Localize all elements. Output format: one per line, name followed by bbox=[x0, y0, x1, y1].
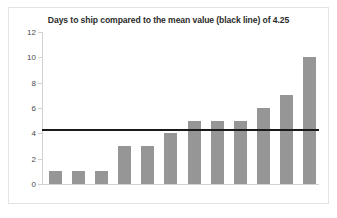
bar bbox=[280, 95, 293, 184]
bar bbox=[95, 171, 108, 184]
bar bbox=[303, 57, 316, 184]
bar bbox=[257, 108, 270, 184]
y-tick-label-10: 10 bbox=[27, 53, 36, 62]
mean-line bbox=[42, 129, 319, 131]
y-tick-label-4: 4 bbox=[32, 129, 36, 138]
bar bbox=[141, 146, 154, 184]
y-tick-label-6: 6 bbox=[32, 104, 36, 113]
y-tick-label-0: 0 bbox=[32, 180, 36, 189]
plot-area: 024681012 bbox=[42, 32, 319, 185]
chart-title: Days to ship compared to the mean value … bbox=[9, 15, 328, 25]
bar-series bbox=[42, 32, 319, 185]
y-tick-label-2: 2 bbox=[32, 154, 36, 163]
y-tick-label-12: 12 bbox=[27, 28, 36, 37]
bar bbox=[118, 146, 131, 184]
bar bbox=[49, 171, 62, 184]
bar bbox=[72, 171, 85, 184]
chart-frame: Days to ship compared to the mean value … bbox=[8, 7, 329, 204]
bar bbox=[164, 133, 177, 184]
y-tick-label-8: 8 bbox=[32, 78, 36, 87]
